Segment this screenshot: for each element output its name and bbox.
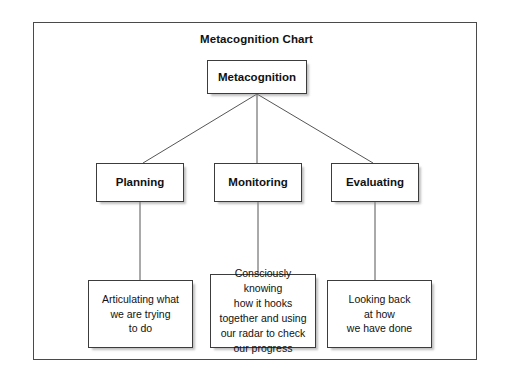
node-planning-label: Planning <box>116 175 165 189</box>
page-title: Metacognition Chart <box>0 33 513 45</box>
node-metacognition-label: Metacognition <box>218 70 296 84</box>
detail-planning: Articulating what we are trying to do <box>88 280 193 348</box>
detail-planning-text: Articulating what we are trying to do <box>102 292 179 337</box>
node-monitoring: Monitoring <box>214 163 302 202</box>
node-monitoring-label: Monitoring <box>228 175 287 189</box>
node-evaluating: Evaluating <box>331 163 419 202</box>
node-evaluating-label: Evaluating <box>346 175 404 189</box>
diagram-canvas: Metacognition Chart Metacognition Planni… <box>0 0 513 385</box>
node-planning: Planning <box>96 163 184 202</box>
node-metacognition: Metacognition <box>207 60 307 94</box>
detail-monitoring: Consciously knowing how it hooks togethe… <box>210 274 316 348</box>
detail-evaluating-text: Looking back at how we have done <box>347 292 412 337</box>
detail-evaluating: Looking back at how we have done <box>327 280 432 348</box>
detail-monitoring-text: Consciously knowing how it hooks togethe… <box>215 266 311 355</box>
